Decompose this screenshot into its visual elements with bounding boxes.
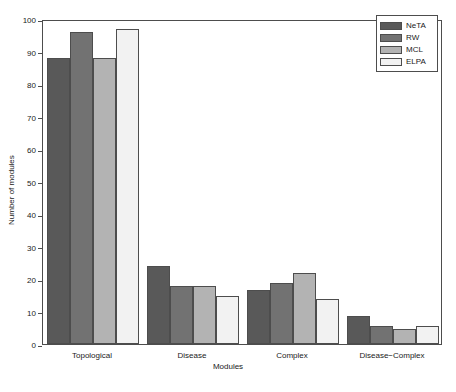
y-tick-label: 0 — [32, 340, 36, 351]
y-tick: 0 — [0, 345, 42, 346]
y-tick-label: 10 — [27, 308, 36, 319]
y-tick: 100 — [0, 20, 42, 21]
legend-label: RW — [406, 33, 419, 42]
bar — [270, 283, 293, 344]
y-tick: 10 — [0, 313, 42, 314]
x-axis-title: Modules — [0, 362, 456, 371]
bar — [193, 286, 216, 344]
bar — [47, 58, 70, 344]
bar — [70, 32, 93, 344]
legend-swatch-icon — [380, 22, 402, 30]
y-tick: 40 — [0, 215, 42, 216]
y-tick: 20 — [0, 280, 42, 281]
x-tick-label: Disease−Complex — [359, 350, 424, 361]
legend-label: ELPA — [406, 57, 426, 66]
bar — [116, 29, 139, 344]
y-tick: 60 — [0, 150, 42, 151]
chart-figure: Number of modules 0102030405060708090100… — [0, 0, 456, 392]
y-tick-label: 40 — [27, 210, 36, 221]
y-tick: 30 — [0, 248, 42, 249]
legend-swatch-icon — [380, 34, 402, 42]
bar — [347, 316, 370, 344]
legend-swatch-icon — [380, 58, 402, 66]
y-tick-label: 20 — [27, 275, 36, 286]
y-tick-label: 90 — [27, 48, 36, 59]
x-tick-mark — [392, 341, 393, 345]
y-tick: 70 — [0, 118, 42, 119]
x-tick-label: Complex — [276, 350, 308, 361]
y-tick-label: 70 — [27, 113, 36, 124]
legend-item: ELPA — [380, 56, 434, 67]
bar — [93, 58, 116, 344]
y-axis-title: Number of modules — [7, 140, 21, 240]
bar — [147, 266, 170, 344]
bar — [393, 329, 416, 344]
bar — [293, 273, 316, 344]
y-tick-label: 30 — [27, 243, 36, 254]
bar — [316, 299, 339, 344]
chart-legend: NeTARWMCLELPA — [376, 15, 438, 72]
legend-item: RW — [380, 32, 434, 43]
y-tick-label: 80 — [27, 80, 36, 91]
bar — [247, 290, 270, 344]
bar — [216, 296, 239, 344]
x-tick-mark — [92, 341, 93, 345]
y-tick: 50 — [0, 183, 42, 184]
x-tick-label: Disease — [178, 350, 207, 361]
legend-swatch-icon — [380, 46, 402, 54]
x-tick-label: Topological — [72, 350, 112, 361]
legend-label: MCL — [406, 45, 423, 54]
bar — [370, 326, 393, 344]
y-tick-mark — [38, 346, 42, 347]
y-tick-label: 100 — [23, 15, 36, 26]
legend-label: NeTA — [406, 21, 426, 30]
legend-item: NeTA — [380, 20, 434, 31]
x-tick-mark — [192, 341, 193, 345]
y-tick: 80 — [0, 85, 42, 86]
bar — [416, 326, 439, 344]
x-tick-mark — [292, 341, 293, 345]
bar — [170, 286, 193, 344]
y-tick-label: 50 — [27, 178, 36, 189]
y-tick: 90 — [0, 53, 42, 54]
y-tick-label: 60 — [27, 145, 36, 156]
legend-item: MCL — [380, 44, 434, 55]
